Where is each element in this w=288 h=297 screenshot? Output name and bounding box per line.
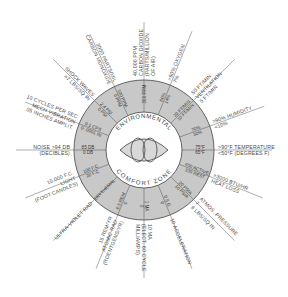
svg-text:>90% HUMIDITY: >90% HUMIDITY (211, 104, 253, 124)
factor-label-heat-loss: >3000 BTU/HRHEAT LOSS (210, 172, 249, 197)
svg-text:65°F: 65°F (195, 150, 205, 155)
svg-text:0: 0 (139, 205, 144, 208)
factor-label-carbon-dioxide: 40,000 PPMCARBON DIOXIDE(PARTS/MILLIONOF… (132, 29, 156, 76)
factor-label-humidity: >90% HUMIDITY<10% (211, 104, 255, 130)
factor-label-noise: NOISE >94 DB(DECIBLES) (33, 144, 70, 156)
svg-text:10 ACCELERATION: 10 ACCELERATION (169, 217, 193, 265)
factor-label-atomic-rad: 15 REM/YRATOMIC RAD.(ROENTGENS/YR) (90, 215, 124, 265)
ring-value-noise: 85 DB0 DB (82, 145, 95, 155)
factor-label-acceleration: 10 ACCELERATION (169, 217, 193, 265)
factor-label-mech-vibration: 10 CYCLES PER SECMECH VIBRATION.05 INCHE… (21, 93, 79, 130)
svg-text:(DECIBLES): (DECIBLES) (39, 150, 70, 156)
ring-value-temperature: 75°F65°F (195, 145, 205, 155)
factor-label-temperature: >90°F TEMPERATURE<50°F (DEGREES F) (218, 144, 275, 156)
svg-text:MILLIAMPS): MILLIAMPS) (135, 224, 141, 255)
factor-label-ultra-violet-rad: ULTRA-VIOLET RAD (53, 200, 94, 241)
svg-text:300 PPM: 300 PPM (142, 84, 147, 103)
svg-text:<50°F (DEGREES F): <50°F (DEGREES F) (218, 150, 270, 156)
factor-label-electric-current: 10 MA(ELECT. 60 CYCLEMILLIAMPS) (135, 224, 153, 272)
environmental-comfort-zone-diagram: 300 PPM60%14%20 FT/MIN10 FT/MIN70%30%75°… (0, 0, 288, 297)
ring-value-carbon-dioxide: 300 PPM (142, 84, 147, 103)
factor-label-shock-waves: SHOCK WAVES>7 LBS/SQ IN (59, 65, 96, 102)
factor-label-carbon-monoxide: 3000 PARTS/MILCARBON MONOXIDE (85, 31, 119, 85)
factor-label-oxygen: >60% OXYGEN7% (166, 43, 192, 83)
svg-text:OF AIR): OF AIR) (150, 56, 156, 76)
svg-text:ULTRA-VIOLET RAD: ULTRA-VIOLET RAD (53, 200, 94, 241)
svg-text:0 DB: 0 DB (83, 150, 93, 155)
diagram-canvas: 300 PPM60%14%20 FT/MIN10 FT/MIN70%30%75°… (0, 0, 288, 297)
